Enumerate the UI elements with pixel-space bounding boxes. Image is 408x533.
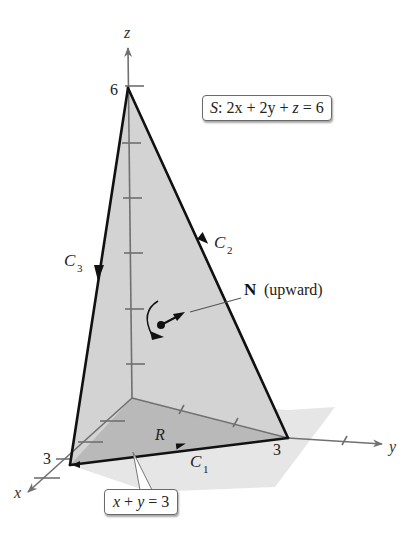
surface-s xyxy=(70,88,288,465)
z-tick-label: 6 xyxy=(110,81,118,98)
line-eq-rhs: 3 xyxy=(161,493,169,510)
svg-text:(upward): (upward) xyxy=(264,281,323,299)
curve-c2-label: C 2 xyxy=(214,233,233,256)
surface-diagram: z y x 6 3 3 C 3 C 2 C 1 R N (upward) xyxy=(0,0,408,533)
line-eq-plus: + xyxy=(120,493,137,510)
line-eq-equals: = xyxy=(144,493,161,510)
eq-plus: + xyxy=(242,99,259,116)
line-equation-box: x + y = 3 xyxy=(104,489,178,515)
region-r-label: R xyxy=(154,426,165,443)
eq-term-2y: 2y xyxy=(259,99,275,116)
svg-text:3: 3 xyxy=(77,262,83,274)
svg-text:2: 2 xyxy=(227,244,233,256)
svg-text:C: C xyxy=(214,233,226,252)
eq-equals: = xyxy=(299,99,316,116)
eq-plus: + xyxy=(275,99,292,116)
y-axis-label: y xyxy=(387,438,397,456)
eq-term-2x: 2x xyxy=(226,99,242,116)
x-axis-label: x xyxy=(13,484,21,501)
z-axis-label: z xyxy=(123,24,131,41)
curve-c3-label: C 3 xyxy=(64,251,83,274)
svg-text:1: 1 xyxy=(203,463,209,475)
svg-text:N: N xyxy=(244,280,257,299)
svg-text:C: C xyxy=(64,251,76,270)
eq-rhs: 6 xyxy=(316,99,324,116)
x-tick-label: 3 xyxy=(43,450,51,467)
normal-label: N (upward) xyxy=(244,280,323,299)
svg-text:C: C xyxy=(190,452,202,471)
surface-equation-box: S: 2x + 2y + z = 6 xyxy=(202,95,332,121)
surface-name: S xyxy=(210,99,218,116)
y-tick-label: 3 xyxy=(273,441,281,458)
